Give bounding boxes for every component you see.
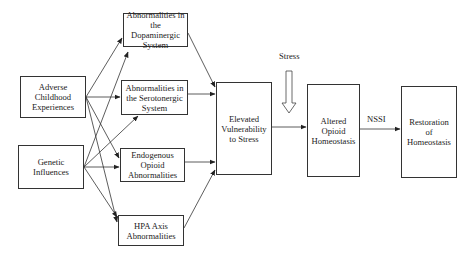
node-altered-opioid-homeostasis: Altered Opioid Homeostasis xyxy=(307,84,360,177)
node-label: Genetic Influences xyxy=(21,157,81,177)
nssi-label: NSSI xyxy=(367,114,386,124)
node-endogenous-opioid-abnormalities: Endogenous Opioid Abnormalities xyxy=(120,148,185,182)
edge-dopaminergic-vulnerability xyxy=(188,33,215,87)
edge-adverse-dopaminergic xyxy=(86,38,122,97)
node-elevated-vulnerability: Elevated Vulnerability to Stress xyxy=(216,82,272,175)
node-label: Restoration of Homeostasis xyxy=(404,117,454,147)
node-adverse-childhood-experiences: Adverse Childhood Experiences xyxy=(20,76,86,118)
node-hpa-axis-abnormalities: HPA Axis Abnormalities xyxy=(118,215,184,246)
node-label: Adverse Childhood Experiences xyxy=(23,82,83,112)
node-serotonergic-abnormalities: Abnormalities in the Serotonergic System xyxy=(121,80,188,115)
edge-hpa-vulnerability xyxy=(184,170,215,228)
node-restoration-of-homeostasis: Restoration of Homeostasis xyxy=(401,86,457,178)
node-dopaminergic-abnormalities: Abnormalities in the Dopaminergic System xyxy=(123,13,188,47)
stress-label: Stress xyxy=(279,51,300,61)
node-genetic-influences: Genetic Influences xyxy=(18,145,84,189)
node-label: Altered Opioid Homeostasis xyxy=(310,116,357,146)
stress-arrow-icon xyxy=(282,71,296,113)
node-label: Elevated Vulnerability to Stress xyxy=(219,114,269,144)
node-label: HPA Axis Abnormalities xyxy=(120,221,181,241)
node-label: Endogenous Opioid Abnormalities xyxy=(122,150,183,180)
node-label: Abnormalities in the Dopaminergic System xyxy=(126,10,185,50)
edge-genetic-hpa xyxy=(84,167,117,217)
node-label: Abnormalities in the Serotonergic System xyxy=(124,83,185,113)
edge-adverse-hpa xyxy=(86,97,117,222)
